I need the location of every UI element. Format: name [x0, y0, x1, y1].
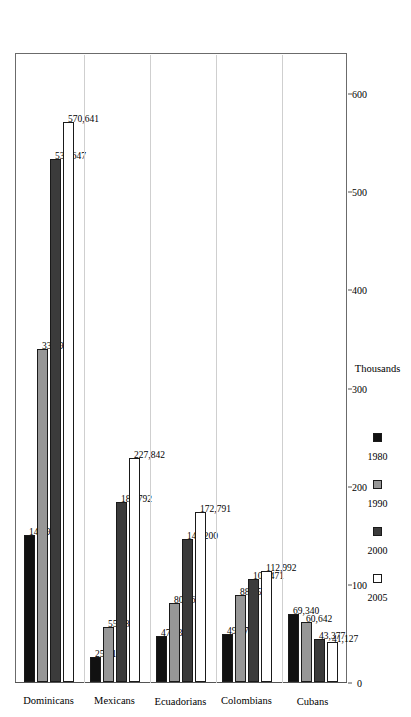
- bar-value-label: 149,947: [24, 501, 34, 532]
- bar-wrap: 43,377: [314, 639, 325, 682]
- rotated-figure-wrapper: DominicansMexicansEcuadoriansColombiansC…: [0, 0, 411, 717]
- bar-2000-ecuadorians[interactable]: [182, 539, 193, 682]
- bar-wrap: 60,642: [301, 623, 312, 683]
- bar-1980-mexicans[interactable]: [90, 657, 101, 682]
- axis-tick: 500: [348, 185, 365, 200]
- bar-row: 149,947: [24, 54, 35, 682]
- axis-tick-label: 500: [352, 187, 367, 198]
- legend-item-2005[interactable]: 2005: [372, 574, 383, 607]
- bar-value-label: 41,127: [327, 613, 337, 639]
- value-axis-line: [15, 682, 347, 683]
- bar-1980-ecuadorians[interactable]: [156, 636, 167, 682]
- bar-1980-cubans[interactable]: [288, 614, 299, 682]
- bar-row: 60,642: [301, 54, 312, 682]
- bar-1990-mexicans[interactable]: [103, 627, 114, 682]
- bar-value-label: 146,200: [182, 505, 192, 536]
- axis-title-label: Thousands: [355, 363, 401, 374]
- axis-tick-label: 200: [352, 481, 367, 492]
- bar-1980-dominicans[interactable]: [24, 535, 35, 682]
- legend-swatch-icon: [373, 433, 382, 442]
- bar-wrap: 55,587: [103, 627, 114, 682]
- bar-wrap: 80,862: [169, 603, 180, 682]
- legend-item-2000[interactable]: 2000: [372, 527, 383, 560]
- axis-tick: 400: [348, 283, 365, 298]
- category-label: Colombians: [217, 685, 276, 717]
- category-label: Mexicans: [85, 685, 144, 717]
- bar-row: 146,200: [182, 54, 193, 682]
- axis-tick-label: 0: [357, 678, 362, 689]
- bar-row: 338,961: [37, 54, 48, 682]
- bar-2000-colombians[interactable]: [248, 579, 259, 682]
- legend-swatch-icon: [373, 480, 382, 489]
- bar-row: 112,992: [261, 54, 272, 682]
- bar-value-label: 172,791: [195, 479, 205, 510]
- category-label-text: Dominicans: [24, 696, 75, 707]
- bar-row: 55,587: [103, 54, 114, 682]
- bar-wrap: 532,647: [50, 159, 61, 682]
- bar-row: 532,647: [50, 54, 61, 682]
- bar-row: 183,792: [116, 54, 127, 682]
- bar-row: 88,259: [235, 54, 246, 682]
- bar-value-label: 338,961: [37, 316, 47, 347]
- bar-1980-colombians[interactable]: [222, 634, 233, 682]
- category-axis: DominicansMexicansEcuadoriansColombiansC…: [16, 685, 346, 717]
- bar-wrap: 49,171: [222, 634, 233, 682]
- bar-groups: 149,947338,961532,647570,64125,91955,587…: [16, 54, 346, 682]
- bar-row: 49,171: [222, 54, 233, 682]
- bar-row: 80,862: [169, 54, 180, 682]
- bar-row: 47,330: [156, 54, 167, 682]
- bar-value-label: 49,171: [222, 605, 232, 631]
- bar-row: 570,641: [63, 54, 74, 682]
- bar-row: 25,919: [90, 54, 101, 682]
- bar-2005-colombians[interactable]: [261, 571, 272, 682]
- bar-2005-dominicans[interactable]: [63, 122, 74, 682]
- legend-item-1980[interactable]: 1980: [372, 433, 383, 466]
- bar-value-label: 105,471: [248, 545, 258, 576]
- bar-wrap: 69,340: [288, 614, 299, 682]
- legend-swatch-icon: [373, 574, 382, 583]
- bar-1990-colombians[interactable]: [235, 595, 246, 682]
- bar-value-label: 532,647: [50, 125, 60, 156]
- bar-wrap: 105,471: [248, 579, 259, 682]
- bar-2000-mexicans[interactable]: [116, 502, 127, 682]
- bar-value-label: 112,992: [261, 538, 271, 569]
- bar-value-label: 60,642: [301, 593, 311, 619]
- bar-wrap: 112,992: [261, 571, 272, 682]
- bar-value-label: 227,842: [129, 425, 139, 456]
- legend-label: 2000: [368, 545, 388, 556]
- bar-row: 43,377: [314, 54, 325, 682]
- bar-value-label: 43,377: [314, 610, 324, 636]
- bar-1990-cubans[interactable]: [301, 623, 312, 683]
- bar-group: 49,17188,259105,471112,992: [217, 54, 276, 682]
- bar-wrap: 227,842: [129, 458, 140, 682]
- bar-wrap: 338,961: [37, 349, 48, 682]
- bar-1990-ecuadorians[interactable]: [169, 603, 180, 682]
- bar-1990-dominicans[interactable]: [37, 349, 48, 682]
- bar-2005-mexicans[interactable]: [129, 458, 140, 682]
- legend-label: 1990: [368, 498, 388, 509]
- bar-group: 149,947338,961532,647570,641: [19, 54, 78, 682]
- legend-item-1990[interactable]: 1990: [372, 480, 383, 513]
- category-label-text: Cubans: [297, 696, 329, 707]
- category-label: Dominicans: [19, 685, 78, 717]
- bar-wrap: 47,330: [156, 636, 167, 682]
- bar-value-label: 80,862: [169, 574, 179, 600]
- bar-group: 25,91955,587183,792227,842: [85, 54, 144, 682]
- chart-page: DominicansMexicansEcuadoriansColombiansC…: [0, 0, 411, 717]
- category-label: Cubans: [283, 685, 342, 717]
- bar-2005-cubans[interactable]: [327, 642, 338, 682]
- bar-wrap: 25,919: [90, 657, 101, 682]
- legend-label: 1980: [368, 451, 388, 462]
- bar-2000-dominicans[interactable]: [50, 159, 61, 682]
- bar-row: 172,791: [195, 54, 206, 682]
- bar-2005-ecuadorians[interactable]: [195, 512, 206, 682]
- axis-tick-label: 300: [352, 383, 367, 394]
- axis-tick-mark: [348, 683, 352, 684]
- chart-legend: 1980199020002005: [372, 433, 383, 607]
- bar-row: 105,471: [248, 54, 259, 682]
- bar-wrap: 146,200: [182, 539, 193, 682]
- bar-2000-cubans[interactable]: [314, 639, 325, 682]
- bar-value-label: 88,259: [235, 566, 245, 592]
- axis-tick: 300: [348, 381, 365, 396]
- bar-chart-figure: DominicansMexicansEcuadoriansColombiansC…: [0, 0, 411, 717]
